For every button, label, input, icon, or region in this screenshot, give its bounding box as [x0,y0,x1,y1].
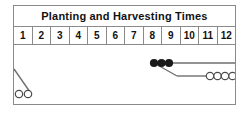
planting-marker [165,59,173,67]
month-cell-2: 2 [33,27,52,44]
screenshot-root: Planting and Harvesting Times 1 2 3 4 5 … [0,0,249,116]
month-cell-3: 3 [51,27,70,44]
month-header-row: 1 2 3 4 5 6 7 8 9 10 11 12 [14,27,235,45]
month-cell-8: 8 [144,27,163,44]
month-cell-11: 11 [199,27,218,44]
month-cell-9: 9 [162,27,181,44]
harvest-marker [206,72,213,79]
planting-marker [157,59,165,67]
chart-plot-area [14,45,235,104]
harvest-marker [214,72,221,79]
harvest-marker [221,72,228,79]
harvest-marker [24,90,31,97]
month-cell-4: 4 [70,27,89,44]
chart-plot-svg [14,45,235,104]
harvest-marker [229,72,235,79]
month-cell-1: 1 [14,27,33,44]
chart-title-row: Planting and Harvesting Times [14,6,235,27]
harvest-marker [15,90,22,97]
page-title: Planting and Harvesting Times [41,11,207,22]
month-cell-7: 7 [125,27,144,44]
month-cell-12: 12 [218,27,236,44]
month-cell-10: 10 [181,27,200,44]
planting-harvesting-chart: Planting and Harvesting Times 1 2 3 4 5 … [13,5,236,105]
month-cell-5: 5 [88,27,107,44]
harvest-left-connector [14,69,30,92]
month-cell-6: 6 [107,27,126,44]
planting-marker [150,59,158,67]
